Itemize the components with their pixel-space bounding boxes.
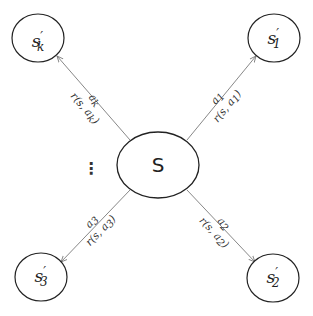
state-node-s3: s′3: [15, 253, 67, 301]
svg-text:s′2: s′2: [266, 266, 279, 290]
edge-label-s2: a2 r(s, a2): [196, 205, 242, 251]
svg-text:r(s, a3): r(s, a3): [83, 212, 119, 249]
center-state-node: S: [117, 132, 199, 198]
svg-text:S: S: [152, 153, 165, 177]
state-node-sk: s′k: [12, 14, 64, 62]
state-transition-diagram: ak r(s, ak) a1 r(s, a1) a2 r(s, a2) a3 r…: [0, 0, 313, 316]
edge-label-sk: ak r(s, ak): [67, 81, 112, 127]
svg-text:s′1: s′1: [267, 27, 280, 51]
svg-text:s′k: s′k: [32, 30, 45, 54]
state-node-s2: s′2: [247, 254, 299, 302]
svg-text:s′3: s′3: [34, 265, 47, 289]
edge-label-s1: a1 r(s, a1): [200, 79, 245, 125]
ellipsis: ⋮: [83, 159, 99, 178]
state-node-s1: s′1: [248, 14, 300, 62]
